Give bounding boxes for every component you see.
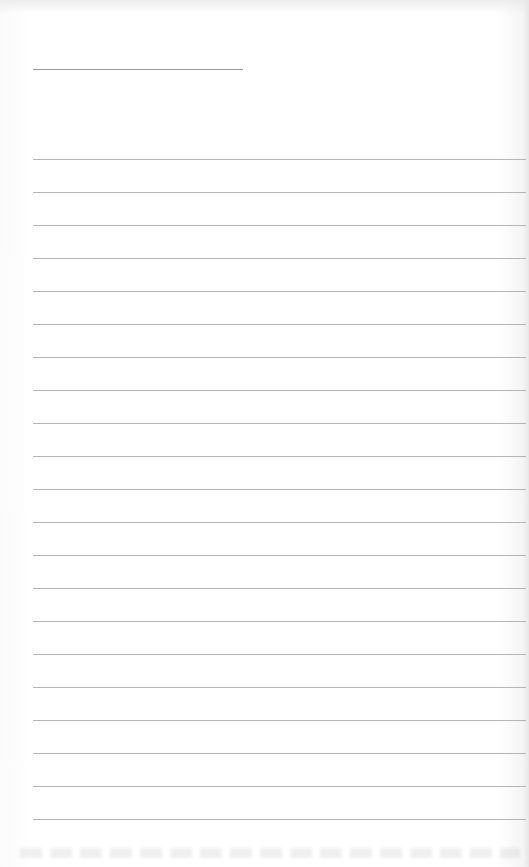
write-line[interactable] bbox=[33, 654, 526, 655]
scan-right-edge bbox=[523, 0, 529, 867]
write-line[interactable] bbox=[33, 192, 526, 193]
write-line[interactable] bbox=[33, 522, 526, 523]
write-line[interactable] bbox=[33, 588, 526, 589]
write-line[interactable] bbox=[33, 324, 526, 325]
write-line[interactable] bbox=[33, 456, 526, 457]
lined-paper-page bbox=[0, 0, 529, 867]
header-write-line[interactable] bbox=[33, 69, 243, 70]
bleed-through-text bbox=[20, 848, 520, 858]
write-line[interactable] bbox=[33, 291, 526, 292]
write-line[interactable] bbox=[33, 786, 526, 787]
write-line[interactable] bbox=[33, 225, 526, 226]
write-line[interactable] bbox=[33, 753, 526, 754]
write-line[interactable] bbox=[33, 159, 526, 160]
write-line[interactable] bbox=[33, 357, 526, 358]
write-line[interactable] bbox=[33, 555, 526, 556]
write-line[interactable] bbox=[33, 720, 526, 721]
write-line[interactable] bbox=[33, 819, 526, 820]
write-line[interactable] bbox=[33, 489, 526, 490]
write-line[interactable] bbox=[33, 687, 526, 688]
write-line[interactable] bbox=[33, 258, 526, 259]
write-line[interactable] bbox=[33, 423, 526, 424]
scan-top-shadow bbox=[0, 0, 529, 14]
write-line[interactable] bbox=[33, 390, 526, 391]
write-line[interactable] bbox=[33, 621, 526, 622]
